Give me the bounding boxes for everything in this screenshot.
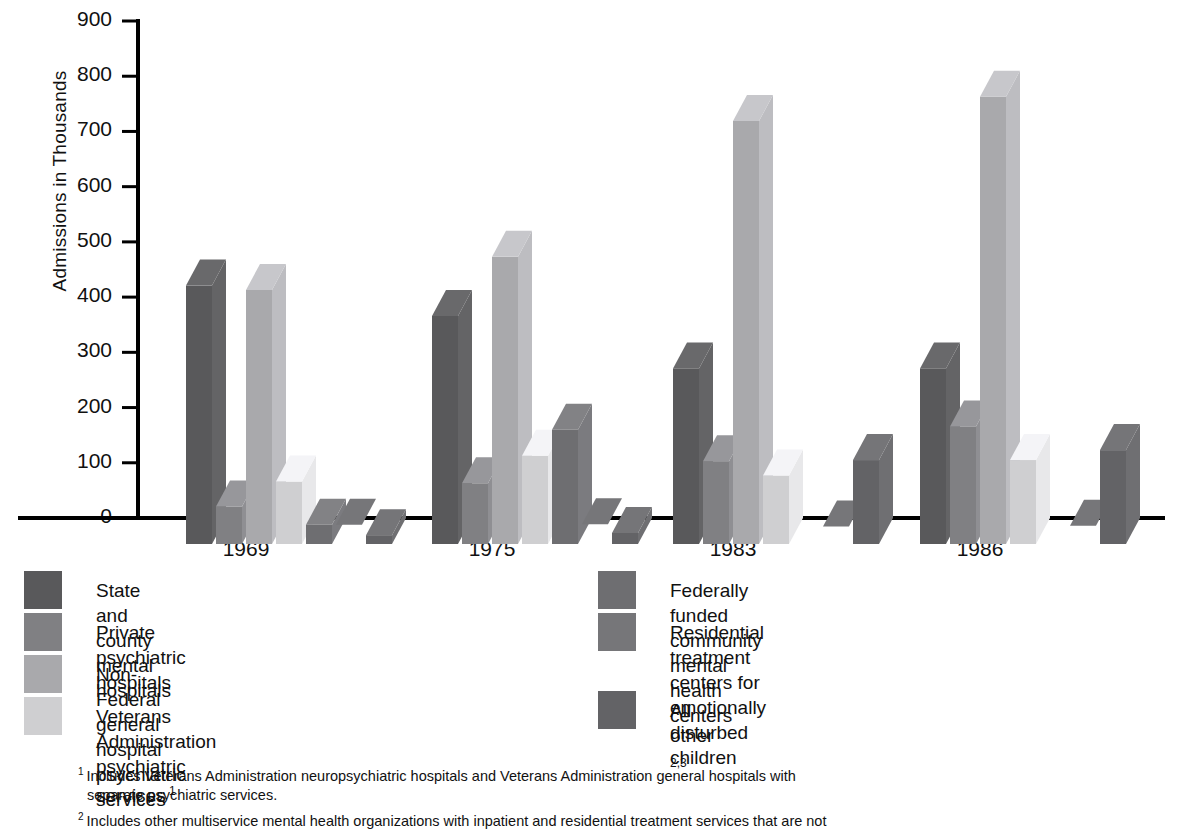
chart-plot-area: Admissions in Thousands 0100200300400500… bbox=[0, 0, 1177, 560]
legend-swatch-icon bbox=[24, 697, 62, 735]
legend-swatch-icon bbox=[598, 691, 636, 729]
footnote: 1Includes Veterans Administration neurop… bbox=[78, 762, 1158, 806]
bar-1969-6 bbox=[366, 509, 406, 544]
footnote-block: 1Includes Veterans Administration neurop… bbox=[78, 762, 1158, 832]
bar-1983-6 bbox=[853, 434, 893, 544]
footnote-marker: 1 bbox=[78, 766, 84, 777]
legend-swatch-icon bbox=[24, 655, 62, 693]
bar-1975-6 bbox=[612, 507, 652, 544]
bar-1986-3 bbox=[1010, 434, 1050, 544]
footnote-marker: 2 bbox=[78, 811, 84, 822]
legend-swatch-icon bbox=[24, 571, 62, 609]
footnote: 2Includes other multiservice mental heal… bbox=[78, 807, 1158, 831]
legend-swatch-icon bbox=[598, 571, 636, 609]
footnote-continuation: separate psychiatric services. bbox=[78, 786, 1158, 806]
legend-swatch-icon bbox=[598, 613, 636, 651]
chart-legend: State and county mental hospitalsPrivate… bbox=[0, 563, 1177, 743]
bar-chart-svg bbox=[0, 0, 1177, 560]
legend-swatch-icon bbox=[24, 613, 62, 651]
bar-1986-6 bbox=[1100, 424, 1140, 544]
